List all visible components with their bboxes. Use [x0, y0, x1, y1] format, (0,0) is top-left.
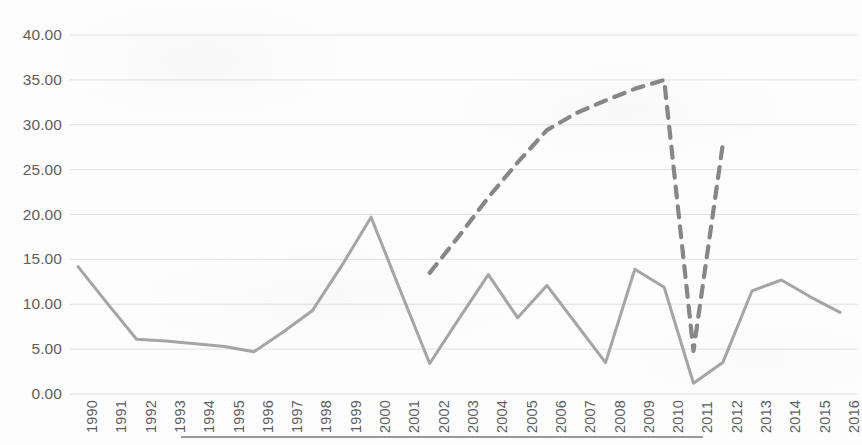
- chart-page: 0.005.0010.0015.0020.0025.0030.0035.0040…: [0, 0, 862, 445]
- x-tick-label: 1993: [172, 400, 188, 433]
- y-tick-label: 30.00: [0, 116, 62, 134]
- x-tick-label: 2000: [377, 400, 393, 433]
- series-line-solid-series: [78, 217, 840, 383]
- x-tick-label: 2012: [729, 400, 745, 433]
- x-tick-label: 2004: [494, 400, 510, 433]
- x-tick-label: 2005: [524, 400, 540, 433]
- y-tick-label: 25.00: [0, 161, 62, 179]
- series-line-dashed-series: [430, 80, 723, 351]
- x-tick-label: 1998: [318, 400, 334, 433]
- y-tick-label: 35.00: [0, 71, 62, 89]
- x-tick-label: 1990: [84, 400, 100, 433]
- y-tick-label: 10.00: [0, 295, 62, 313]
- y-tick-label: 0.00: [0, 385, 62, 403]
- y-tick-label: 20.00: [0, 206, 62, 224]
- x-tick-label: 1994: [201, 400, 217, 433]
- x-tick-label: 2014: [787, 400, 803, 433]
- x-tick-label: 2010: [670, 400, 686, 433]
- x-tick-label: 2015: [817, 400, 833, 433]
- x-tick-label: 2006: [553, 400, 569, 433]
- x-tick-label: 2007: [582, 400, 598, 433]
- y-tick-label: 40.00: [0, 26, 62, 44]
- y-tick-label: 5.00: [0, 340, 62, 358]
- x-tick-label: 2002: [436, 400, 452, 433]
- x-tick-label: 1992: [143, 400, 159, 433]
- x-tick-label: 2009: [641, 400, 657, 433]
- x-tick-label: 2016: [846, 400, 862, 433]
- x-tick-label: 1999: [348, 400, 364, 433]
- line-chart-plot: [0, 0, 862, 445]
- x-tick-label: 2008: [612, 400, 628, 433]
- x-tick-label: 2011: [699, 401, 715, 433]
- series-layer: [78, 80, 840, 383]
- x-tick-label: 1996: [260, 400, 276, 433]
- gridlines: [70, 35, 858, 394]
- x-tick-label: 1997: [289, 400, 305, 433]
- x-tick-label: 2003: [465, 400, 481, 433]
- y-tick-label: 15.00: [0, 250, 62, 268]
- x-tick-label: 2013: [758, 400, 774, 433]
- x-tick-label: 1995: [231, 400, 247, 433]
- x-tick-label: 1991: [113, 400, 129, 433]
- x-tick-label: 2001: [406, 400, 422, 433]
